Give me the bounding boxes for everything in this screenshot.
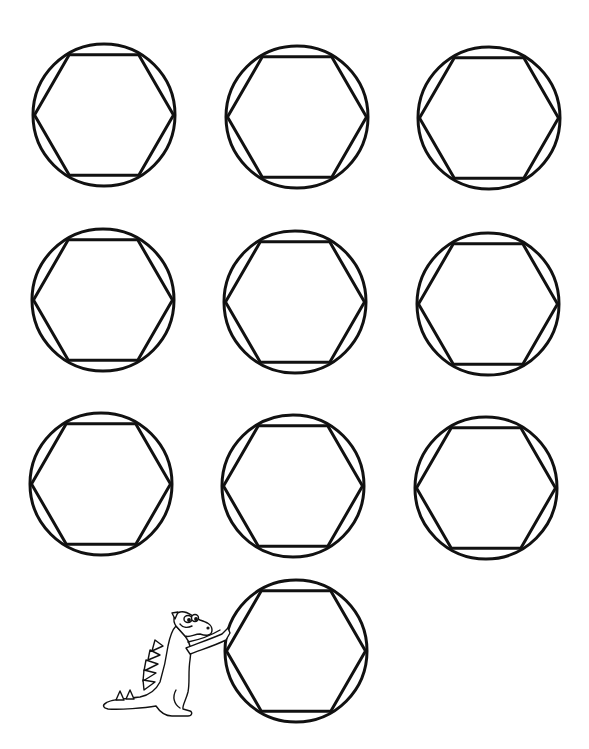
circle-outline [225,580,367,722]
hexagon-outline [35,55,174,175]
circle-outline [417,233,559,375]
circle-hexagon-shape: circle-hexagon 6 [417,233,559,375]
circle-hexagon-shape: circle-hexagon 10 [225,580,367,722]
hexagon-outline [228,57,367,177]
circle-hexagon-shape: circle-hexagon 5 [224,231,366,373]
hexagon-outline [420,58,559,178]
circle-outline [226,46,368,188]
hexagon-outline [32,424,171,544]
circle-hexagon-shape: circle-hexagon 1 [33,44,175,186]
hexagon-outline [34,240,173,360]
dinosaur-tail-spike [116,691,124,700]
worksheet-canvas: circle-hexagon 1circle-hexagon 2circle-h… [0,0,589,749]
shape-grid: circle-hexagon 1circle-hexagon 2circle-h… [30,44,560,722]
circle-hexagon-shape: circle-hexagon 2 [226,46,368,188]
dinosaur-illustration [104,612,230,716]
hexagon-outline [419,244,558,364]
circle-hexagon-shape: circle-hexagon 9 [415,417,557,559]
hexagon-outline [226,242,365,362]
dinosaur-tail-spike [126,690,134,699]
hexagon-outline [417,428,556,548]
circle-outline [30,413,172,555]
hexagon-outline [227,591,366,711]
circle-hexagon-shape: circle-hexagon 7 [30,413,172,555]
circle-hexagon-shape: circle-hexagon 3 [418,47,560,189]
hexagon-outline [224,426,363,546]
circle-outline [415,417,557,559]
circle-hexagon-shape: circle-hexagon 8 [222,415,364,557]
circle-outline [224,231,366,373]
circle-outline [32,229,174,371]
circle-outline [222,415,364,557]
circle-outline [33,44,175,186]
circle-hexagon-shape: circle-hexagon 4 [32,229,174,371]
circle-outline [418,47,560,189]
